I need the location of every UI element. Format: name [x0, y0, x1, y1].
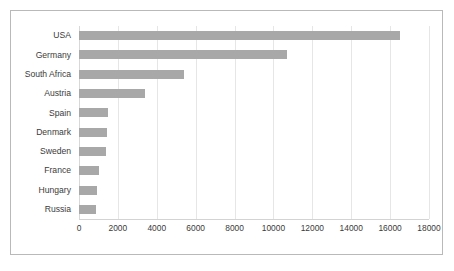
x-tick-label: 8000 [225, 221, 244, 235]
x-tick-label: 0 [77, 221, 82, 235]
x-tick-label: 6000 [186, 221, 205, 235]
x-tick-label: 4000 [147, 221, 166, 235]
category-axis: USAGermanySouth AfricaAustriaSpainDenmar… [11, 26, 76, 219]
bar[interactable] [79, 166, 99, 175]
bar-row [79, 142, 429, 161]
category-label: Austria [11, 84, 76, 103]
bar-row [79, 122, 429, 141]
x-tick-label: 10000 [262, 221, 285, 235]
category-label: Hungary [11, 180, 76, 199]
bar-row [79, 180, 429, 199]
x-axis-tick-labels: 0200040006000800010000120001400016000180… [79, 221, 429, 235]
gridline [429, 26, 430, 219]
category-label: Germany [11, 45, 76, 64]
x-tick-label: 14000 [340, 221, 363, 235]
bar-row [79, 26, 429, 45]
bar-row [79, 161, 429, 180]
chart-frame: USAGermanySouth AfricaAustriaSpainDenmar… [10, 10, 443, 255]
chart-plot-wrapper: USAGermanySouth AfricaAustriaSpainDenmar… [11, 11, 442, 254]
bar[interactable] [79, 128, 107, 137]
bar[interactable] [79, 70, 184, 79]
bar[interactable] [79, 89, 145, 98]
bar-row [79, 45, 429, 64]
bar-row [79, 84, 429, 103]
plot-area [79, 26, 429, 219]
bar-row [79, 103, 429, 122]
bar[interactable] [79, 50, 287, 59]
category-label: France [11, 161, 76, 180]
x-tick-label: 12000 [301, 221, 324, 235]
bar-row [79, 65, 429, 84]
category-label: USA [11, 26, 76, 45]
bar[interactable] [79, 205, 96, 214]
bar-series [79, 26, 429, 219]
category-label: Spain [11, 103, 76, 122]
bar-row [79, 200, 429, 219]
bar[interactable] [79, 108, 108, 117]
category-label: Russia [11, 200, 76, 219]
bar[interactable] [79, 147, 106, 156]
bar[interactable] [79, 31, 400, 40]
x-tick-label: 2000 [109, 221, 128, 235]
x-axis-line [79, 219, 429, 220]
category-label: South Africa [11, 65, 76, 84]
category-label: Denmark [11, 122, 76, 141]
bar[interactable] [79, 186, 97, 195]
x-tick-label: 16000 [378, 221, 401, 235]
x-tick-label: 18000 [417, 221, 440, 235]
category-label: Sweden [11, 142, 76, 161]
